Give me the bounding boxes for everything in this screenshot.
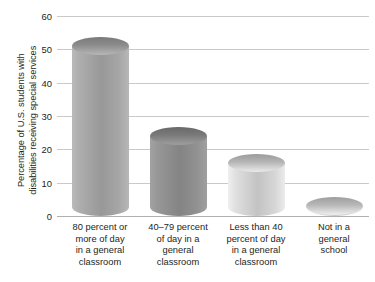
y-axis-tick-20: 20: [42, 144, 52, 155]
x-axis-label-line: in a general: [58, 245, 142, 257]
x-axis-label-line: 40–79 percent: [136, 222, 220, 234]
x-axis-label-line: Not in a: [292, 222, 375, 234]
gridline-0: 0: [57, 216, 369, 217]
y-axis-tick-30: 30: [42, 111, 52, 122]
x-axis-label-line: percent of day: [214, 234, 298, 246]
plot-area: 0102030405060: [57, 16, 369, 216]
gridline-60: 60: [57, 16, 369, 17]
bar-chart: Percentage of U.S. students with disabil…: [0, 0, 375, 282]
y-axis-tick-60: 60: [42, 11, 52, 22]
x-axis-label-line: more of day: [58, 234, 142, 246]
x-axis-label: 40–79 percentof day in ageneralclassroom: [136, 222, 220, 268]
y-axis-tick-50: 50: [42, 44, 52, 55]
y-axis-title-line-2: disabilities receiving special services: [27, 46, 39, 195]
x-axis-label-line: in a general: [214, 245, 298, 257]
x-axis-label-line: school: [292, 245, 375, 257]
bar: [306, 206, 363, 216]
bar: [150, 136, 207, 216]
bar-body: [72, 46, 129, 216]
y-axis-tick-0: 0: [47, 211, 52, 222]
x-axis-label-line: classroom: [136, 257, 220, 269]
x-axis-label-line: 80 percent or: [58, 222, 142, 234]
x-axis-label-line: classroom: [214, 257, 298, 269]
y-axis-title: Percentage of U.S. students with disabil…: [12, 0, 42, 240]
bar-top-cap: [150, 127, 207, 145]
x-axis-label: Less than 40percent of dayin a generalcl…: [214, 222, 298, 268]
x-axis-label: 80 percent ormore of dayin a generalclas…: [58, 222, 142, 268]
x-axis-label-line: classroom: [58, 257, 142, 269]
x-axis-label-line: Less than 40: [214, 222, 298, 234]
x-axis-label-line: general: [292, 234, 375, 246]
y-axis-tick-10: 10: [42, 177, 52, 188]
bar: [228, 163, 285, 216]
x-axis-label-line: of day in a: [136, 234, 220, 246]
x-axis-label: Not in ageneralschool: [292, 222, 375, 257]
x-axis-label-line: general: [136, 245, 220, 257]
bar-body: [150, 136, 207, 216]
y-axis-tick-40: 40: [42, 77, 52, 88]
bar-top-cap: [228, 154, 285, 172]
bar-top-cap: [72, 37, 129, 55]
y-axis-title-line-1: Percentage of U.S. students with: [15, 46, 27, 195]
bar-top-cap: [306, 197, 363, 215]
x-axis-labels: 80 percent ormore of dayin a generalclas…: [57, 222, 369, 282]
bar: [72, 46, 129, 216]
